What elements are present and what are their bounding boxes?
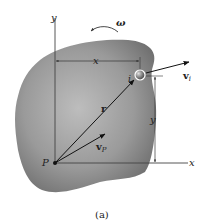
y-axis-label: y xyxy=(50,12,57,23)
point-p-label: P xyxy=(41,157,49,168)
figure-caption: (a) xyxy=(95,209,109,220)
rigid-body-shape xyxy=(15,40,156,192)
particle-i xyxy=(135,70,145,80)
y-dimension-label: y xyxy=(149,114,156,125)
position-vector-label: r xyxy=(101,103,107,114)
x-dimension-label: x xyxy=(93,55,99,66)
rigid-body-kinematics-figure: y x ω x y r vP P i vi (a) xyxy=(0,0,208,224)
omega-label: ω xyxy=(116,17,126,28)
angular-velocity-arc xyxy=(91,27,118,32)
point-p xyxy=(53,161,57,165)
velocity-vi-label: vi xyxy=(182,70,191,83)
particle-i-label: i xyxy=(128,74,131,84)
x-axis-label: x xyxy=(189,157,195,168)
